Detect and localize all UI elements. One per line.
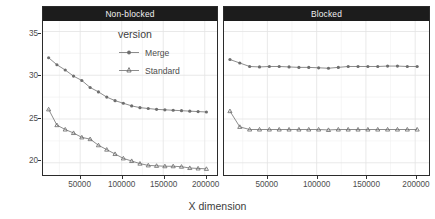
x-tick-mark-1-150000 bbox=[366, 176, 367, 179]
legend-item-standard[interactable]: Standard bbox=[118, 63, 214, 78]
facet-strip-label-blocked: Blocked bbox=[224, 7, 429, 21]
legend-label-standard: Standard bbox=[145, 66, 180, 76]
legend-marker-triangle-icon bbox=[118, 64, 140, 77]
series-merge bbox=[228, 58, 418, 70]
x-tick-mark-1-200000 bbox=[416, 176, 417, 179]
legend-title: version bbox=[118, 28, 214, 40]
y-tick-label-30: 30 bbox=[20, 71, 38, 80]
y-tick-mark-20 bbox=[38, 160, 41, 161]
legend-item-merge[interactable]: Merge bbox=[118, 45, 214, 60]
x-tick-label-0-50000: 50000 bbox=[68, 180, 91, 189]
x-tick-mark-0-150000 bbox=[164, 176, 165, 179]
facet-strip-label-non-blocked: Non-blocked bbox=[43, 7, 217, 21]
x-tick-label-0-150000: 150000 bbox=[150, 180, 177, 189]
x-tick-label-0-100000: 100000 bbox=[108, 180, 135, 189]
x-tick-mark-0-100000 bbox=[122, 176, 123, 179]
y-tick-mark-35 bbox=[38, 33, 41, 34]
y-tick-label-20: 20 bbox=[20, 156, 38, 165]
x-tick-label-0-200000: 200000 bbox=[192, 180, 219, 189]
x-tick-label-1-100000: 100000 bbox=[303, 180, 330, 189]
legend-marker-circle-icon bbox=[118, 46, 140, 59]
legend: version Merge Standard bbox=[118, 28, 214, 81]
y-tick-label-25: 25 bbox=[20, 114, 38, 123]
y-axis-ticks: 35 30 25 20 bbox=[16, 0, 38, 219]
y-tick-mark-25 bbox=[38, 118, 41, 119]
x-axis-title: X dimension bbox=[0, 200, 435, 212]
plot-area-blocked bbox=[224, 21, 429, 175]
facet-panel-blocked: Blocked bbox=[223, 6, 430, 176]
legend-label-merge: Merge bbox=[145, 48, 169, 58]
x-tick-mark-0-50000 bbox=[80, 176, 81, 179]
x-tick-label-1-150000: 150000 bbox=[353, 180, 380, 189]
y-tick-mark-30 bbox=[38, 75, 41, 76]
x-tick-label-1-50000: 50000 bbox=[255, 180, 278, 189]
x-tick-label-1-200000: 200000 bbox=[402, 180, 429, 189]
y-tick-label-35: 35 bbox=[20, 29, 38, 38]
x-tick-mark-1-50000 bbox=[267, 176, 268, 179]
x-tick-mark-1-100000 bbox=[317, 176, 318, 179]
x-tick-mark-0-200000 bbox=[206, 176, 207, 179]
facet-line-chart: Performance GFLOPS 35 30 25 20 Non-block… bbox=[0, 0, 435, 219]
